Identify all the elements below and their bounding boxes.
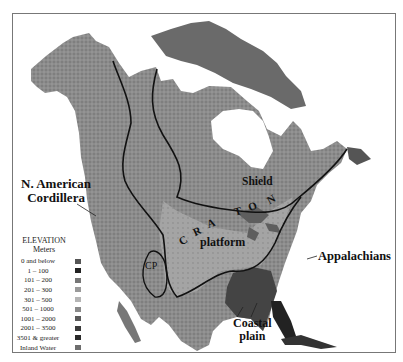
- appalachians-leader: [307, 256, 317, 259]
- legend-swatch: [75, 259, 81, 264]
- map-frame: N. American Cordillera Shield C R A T O …: [12, 13, 396, 353]
- newfoundland: [347, 147, 371, 165]
- legend-item: 0 and below: [12, 256, 83, 266]
- legend-item: 1 – 100: [12, 266, 83, 276]
- legend-swatch: [75, 297, 81, 302]
- legend-item: 1001 – 2000: [12, 314, 83, 324]
- legend-item: 201 – 300: [12, 285, 83, 295]
- legend-swatch: [75, 268, 81, 273]
- coastal-label-line1: Coastal: [233, 317, 272, 330]
- legend-unit: Meters: [12, 245, 83, 254]
- cordillera-label-line1: N. American: [21, 177, 91, 191]
- legend-swatch: [75, 326, 81, 331]
- shield-label: Shield: [242, 175, 273, 187]
- legend-item: 301 – 500: [12, 295, 83, 305]
- legend-swatch: [75, 335, 81, 340]
- cordillera-label: N. American Cordillera: [21, 177, 91, 204]
- legend-title: ELEVATION: [12, 236, 83, 245]
- platform-label: platform: [200, 236, 245, 249]
- colorado-plateau-label: CP: [145, 261, 157, 272]
- legend-item: 101 – 200: [12, 276, 83, 286]
- legend-item: 2001 – 3500: [12, 324, 83, 334]
- legend-swatch: [75, 307, 81, 312]
- legend-swatch: [75, 278, 81, 283]
- legend-swatch: [75, 316, 81, 321]
- legend-item: Inland Water: [12, 343, 83, 353]
- legend-item: 3501 & greater: [12, 333, 83, 343]
- legend-swatch: [75, 287, 81, 292]
- appalachians-label: Appalachians: [318, 250, 391, 263]
- legend-item: 501 – 1000: [12, 304, 83, 314]
- cordillera-label-line2: Cordillera: [21, 191, 91, 205]
- coastal-plain-label: Coastal plain: [233, 317, 272, 342]
- legend-swatch: [75, 345, 81, 350]
- coastal-label-line2: plain: [233, 330, 272, 343]
- elevation-legend: ELEVATION Meters 0 and below 1 – 100 101…: [12, 234, 83, 353]
